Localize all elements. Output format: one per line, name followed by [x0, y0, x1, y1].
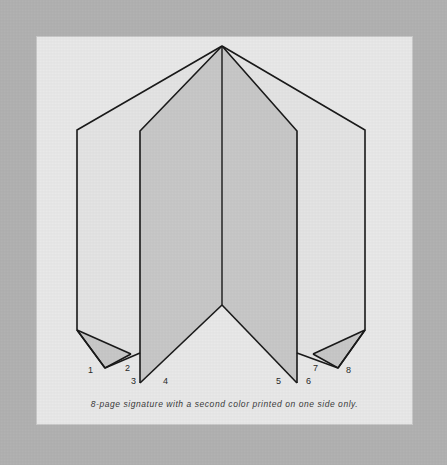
- figure-caption: 8-page signature with a second color pri…: [36, 399, 413, 409]
- page-number-3: 3: [131, 377, 136, 386]
- page-number-2: 2: [125, 364, 130, 373]
- figure-root: 1 2 3 4 5 6 7 8 8-page signature with a …: [0, 0, 447, 465]
- page-number-6: 6: [306, 377, 311, 386]
- page-number-4: 4: [163, 377, 168, 386]
- page-number-5: 5: [276, 377, 281, 386]
- signature-fold-diagram: [0, 0, 447, 465]
- page-number-7: 7: [313, 364, 318, 373]
- page-number-1: 1: [88, 366, 93, 375]
- page-number-8: 8: [346, 366, 351, 375]
